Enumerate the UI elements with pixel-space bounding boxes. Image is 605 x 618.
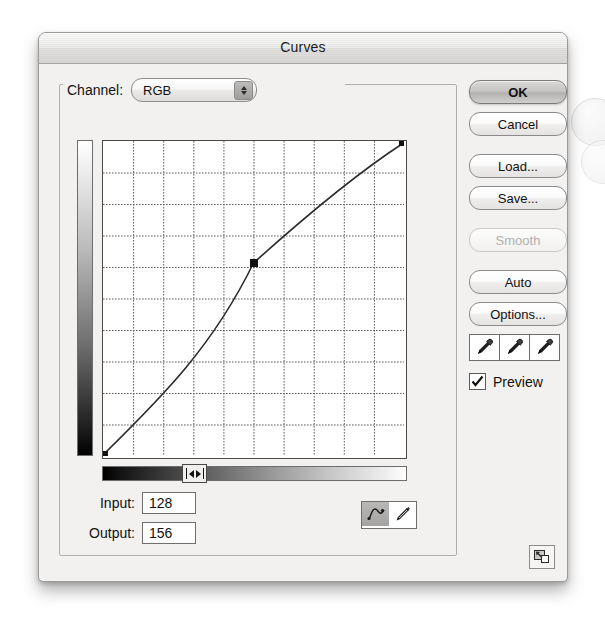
curve-tool-toggle: [361, 501, 417, 529]
resize-icon: [534, 550, 550, 564]
screenshot-root: Curves Channel: RGB: [0, 0, 605, 618]
updown-stepper-icon[interactable]: [234, 81, 253, 100]
page-artifact-circle: [571, 98, 605, 146]
eyedropper-icon: [535, 338, 554, 357]
save-button[interactable]: Save...: [469, 186, 567, 210]
input-tone-ramp: [102, 466, 407, 481]
white-point-handle[interactable]: [399, 141, 404, 146]
preview-checkbox[interactable]: [469, 373, 486, 390]
eyedropper-icon: [475, 338, 494, 357]
curves-dialog: Curves Channel: RGB: [38, 32, 568, 582]
output-tone-ramp: [77, 140, 93, 456]
curve-graph[interactable]: [102, 140, 407, 459]
input-label: Input:: [75, 495, 135, 511]
dialog-body: Channel: RGB: [39, 64, 567, 581]
eyedropper-icon: [505, 338, 524, 357]
input-row: Input: 128: [75, 492, 196, 514]
black-point-handle[interactable]: [103, 451, 108, 456]
preview-label: Preview: [493, 374, 543, 390]
output-field[interactable]: 156: [142, 522, 196, 544]
set-black-point-eyedropper[interactable]: [469, 334, 500, 361]
load-button[interactable]: Load...: [469, 154, 567, 178]
set-white-point-eyedropper[interactable]: [529, 334, 560, 361]
channel-selected-value: RGB: [132, 83, 171, 98]
dialog-button-column: OK Cancel Load... Save... Smooth Auto Op…: [469, 80, 565, 390]
cancel-button[interactable]: Cancel: [469, 112, 567, 136]
checkmark-icon: [471, 375, 484, 388]
curve-tool[interactable]: [362, 502, 389, 526]
eyedropper-group: [469, 334, 565, 361]
set-gray-point-eyedropper[interactable]: [499, 334, 530, 361]
channel-label: Channel:: [67, 82, 123, 98]
channel-row: Channel: RGB: [67, 78, 257, 102]
left-right-arrows-icon[interactable]: [182, 464, 207, 483]
dialog-title: Curves: [39, 39, 567, 55]
curve-icon: [366, 506, 386, 522]
preview-row[interactable]: Preview: [469, 373, 565, 390]
auto-button[interactable]: Auto: [469, 270, 567, 294]
input-field[interactable]: 128: [142, 492, 196, 514]
page-artifact-circle-secondary: [581, 140, 605, 184]
pencil-icon: [394, 505, 412, 523]
smooth-button[interactable]: Smooth: [469, 228, 567, 252]
midpoint-handle[interactable]: [250, 259, 258, 267]
ok-button[interactable]: OK: [469, 80, 567, 104]
pencil-tool[interactable]: [389, 502, 416, 526]
resize-grow-box[interactable]: [529, 545, 555, 569]
output-row: Output: 156: [75, 522, 196, 544]
curve-graph-canvas[interactable]: [103, 141, 404, 456]
options-button[interactable]: Options...: [469, 302, 567, 326]
output-label: Output:: [75, 525, 135, 541]
channel-select[interactable]: RGB: [131, 78, 257, 102]
dialog-titlebar[interactable]: Curves: [39, 33, 567, 64]
